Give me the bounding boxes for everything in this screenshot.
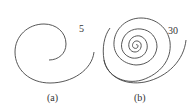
spirals-diagram <box>0 0 190 109</box>
label-b-value: 30 <box>168 26 178 36</box>
spiral-b <box>103 18 170 81</box>
label-a-value: 5 <box>79 24 84 34</box>
caption-a: (a) <box>47 93 58 103</box>
spiral-b-outer <box>104 40 186 83</box>
caption-b: (b) <box>134 93 146 103</box>
